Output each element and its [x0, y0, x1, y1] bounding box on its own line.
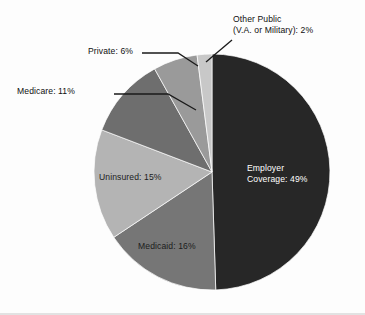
pie-label-medicaid: Medicaid: 16% — [138, 241, 196, 252]
pie-label-other-public-line1: Other Public — [233, 14, 282, 24]
pie-chart-svg — [0, 0, 365, 315]
pie-label-employer-line1: Employer — [247, 163, 284, 173]
pie-label-employer-line2: Coverage: 49% — [247, 174, 308, 184]
pie-label-other-public: Other Public (V.A. or Military): 2% — [233, 14, 361, 37]
pie-chart-figure: Employer Coverage: 49% Medicaid: 16% Uni… — [0, 0, 365, 315]
pie-label-medicare: Medicare: 11% — [17, 86, 75, 97]
pie-label-employer-coverage: Employer Coverage: 49% — [247, 163, 339, 186]
pie-label-private: Private: 6% — [88, 46, 133, 57]
pie-label-other-public-line2: (V.A. or Military): 2% — [233, 25, 313, 35]
pie-label-uninsured: Uninsured: 15% — [99, 172, 162, 183]
